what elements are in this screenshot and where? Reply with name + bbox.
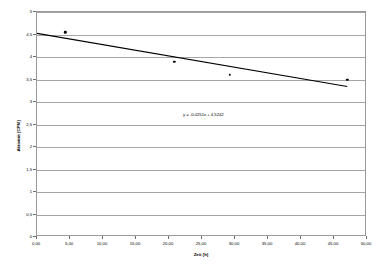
x-axis-tick-label: 0,00 [32,241,40,247]
y-axis-tick-label: 1 [6,189,32,194]
x-axis-tick-mark [102,236,103,239]
x-axis-tick-mark [234,236,235,239]
x-axis-tick-mark [135,236,136,239]
y-axis-tick-label: 4,5 [6,31,32,36]
x-axis-tick-mark [366,236,367,239]
x-axis-tick-mark [201,236,202,239]
x-axis-tick-label: 5,00 [65,241,73,247]
x-axis-tick-mark [300,236,301,239]
x-axis-tick-mark [267,236,268,239]
y-axis-tick-label: 3 [6,99,32,104]
x-axis-tick-label: 20,00 [163,241,173,247]
y-axis-tick-label: 1,5 [6,166,32,171]
y-axis-tick-label: 3,5 [6,76,32,81]
chart-container: Aktivität [CPM] Zeit [h] 00,511,522,533,… [0,0,379,272]
x-axis-tick-label: 10,00 [97,241,107,247]
x-axis-tick-mark [36,236,37,239]
x-axis-tick-label: 40,00 [295,241,305,247]
y-axis-tick-label: 4 [6,54,32,59]
x-axis-tick-label: 30,00 [229,241,239,247]
x-axis-tick-label: 15,00 [130,241,140,247]
x-axis-tick-mark [333,236,334,239]
trendline [37,12,365,235]
y-axis-tick-label: 2 [6,144,32,149]
trendline-equation-label: y = -0,0251x + 4,5242 [183,112,224,118]
y-axis-tick-label: 2,5 [6,121,32,126]
x-axis-tick-label: 35,00 [262,241,272,247]
y-axis-tick-label: 0 [6,234,32,239]
x-axis-tick-label: 45,00 [328,241,338,247]
y-axis-tick-label: 5 [6,9,32,14]
x-axis-tick-mark [69,236,70,239]
x-axis-title: Zeit [h] [36,252,366,258]
y-axis-tick-label: 0,5 [6,211,32,216]
plot-area: y = -0,0251x + 4,5242 [36,11,366,236]
x-axis-tick-mark [168,236,169,239]
x-axis-tick-label: 25,00 [196,241,206,247]
x-axis-tick-label: 50,00 [361,241,371,247]
